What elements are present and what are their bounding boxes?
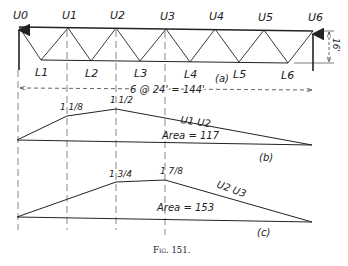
influence-labels-b: 1 1/8 1 1/2 U1 U2 Area = 117 (b) <box>60 95 273 163</box>
ordinate-b2: 1 1/2 <box>110 95 133 105</box>
node-l4: L4 <box>184 68 197 81</box>
node-u5: U5 <box>258 11 273 24</box>
node-u6: U6 <box>308 11 323 24</box>
node-l3: L3 <box>134 67 147 80</box>
figure-caption: Fig. 151. <box>153 245 190 255</box>
node-l2: L2 <box>85 67 98 80</box>
node-u1: U1 <box>62 9 77 22</box>
bottom-chord <box>41 60 288 63</box>
influence-labels-c: 1 3/4 1 7/8 U2 U3 Area = 153 (c) <box>109 166 270 238</box>
node-l6: L6 <box>281 69 294 82</box>
baseline-c <box>17 217 312 222</box>
node-u4: U4 <box>209 10 224 23</box>
node-u3: U3 <box>160 10 175 23</box>
truss-labels: U0 U1 U2 U3 U4 U5 U6 L1 L2 L3 L4 L5 L6 (… <box>13 9 341 95</box>
part-label-a: (a) <box>215 73 229 84</box>
figure-151: U0 U1 U2 U3 U4 U5 U6 L1 L2 L3 L4 L5 L6 (… <box>0 0 348 266</box>
area-label-b: Area = 117 <box>161 130 220 141</box>
span-dimension-text: 6 @ 24' = 144' <box>130 84 205 95</box>
node-u2: U2 <box>110 9 125 22</box>
node-u0: U0 <box>13 9 28 22</box>
node-l5: L5 <box>233 68 246 81</box>
ordinate-b1: 1 1/8 <box>60 102 83 112</box>
influence-line-c <box>17 180 312 222</box>
ordinate-c1: 1 3/4 <box>109 169 132 179</box>
web-members <box>19 27 313 63</box>
influence-polyline-c <box>17 180 312 222</box>
member-label-b: U1 U2 <box>180 114 212 129</box>
height-dimension-text: 16' <box>331 38 341 52</box>
node-l1: L1 <box>35 66 48 79</box>
part-label-c: (c) <box>257 227 270 238</box>
ordinate-c2: 1 7/8 <box>160 166 183 176</box>
part-label-b: (b) <box>259 152 273 163</box>
area-label-c: Area = 153 <box>156 202 214 213</box>
